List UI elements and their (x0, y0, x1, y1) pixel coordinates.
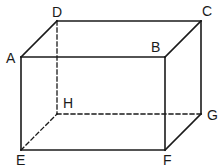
label-F: F (163, 152, 172, 166)
label-D: D (52, 4, 62, 20)
edge-BC (165, 21, 201, 57)
label-H: H (63, 95, 73, 111)
label-B: B (151, 39, 160, 55)
label-G: G (207, 107, 218, 123)
cuboid-diagram: D C A B H G E F (0, 0, 220, 166)
edge-FG (165, 114, 201, 150)
edge-EH (21, 114, 57, 150)
label-A: A (6, 50, 16, 66)
label-C: C (202, 3, 212, 19)
edge-AD (21, 21, 57, 57)
label-E: E (16, 152, 25, 166)
